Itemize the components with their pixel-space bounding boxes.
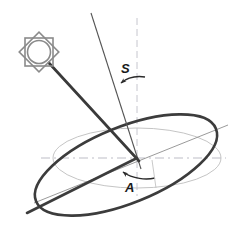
orbital-diagram-container: S A (0, 0, 245, 229)
label-axis-tilt-s: S (121, 61, 130, 76)
label-orbit-inclination-a: A (124, 180, 134, 195)
orbital-diagram-canvas: S A (0, 0, 245, 229)
sun-icon (19, 32, 59, 72)
sun-icon-disc (28, 41, 51, 64)
